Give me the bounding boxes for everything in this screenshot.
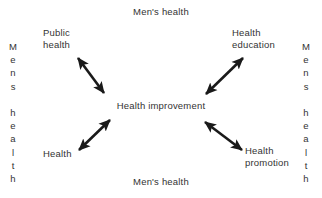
caption-right-char: n — [299, 66, 313, 79]
caption-right-char: h — [299, 172, 313, 185]
caption-left-vertical: M e n s h e a l t h — [6, 40, 20, 185]
caption-left-char: e — [6, 119, 20, 132]
node-health-improvement: Health improvement — [0, 100, 322, 112]
caption-left-char: n — [6, 66, 20, 79]
node-health-education: Health education — [232, 27, 275, 50]
node-health-promotion: Health promotion — [245, 145, 289, 168]
caption-right-char: l — [299, 146, 313, 159]
arrow-health — [79, 120, 110, 150]
caption-right-vertical: M e n s h e a l t h — [299, 40, 313, 185]
caption-left-char: h — [6, 172, 20, 185]
caption-right-char: M — [299, 40, 313, 53]
caption-top: Men's health — [0, 6, 322, 18]
mens-health-diagram: Men's health Men's health M e n s h e a … — [0, 0, 322, 198]
arrow-health-promotion — [205, 122, 242, 150]
node-health: Health — [43, 148, 72, 160]
caption-right-char: s — [299, 80, 313, 93]
caption-left-char: s — [6, 80, 20, 93]
caption-left-char: e — [6, 53, 20, 66]
caption-left-char: a — [6, 132, 20, 145]
arrow-public-health — [78, 58, 104, 93]
caption-right-char: e — [299, 53, 313, 66]
caption-left-char: l — [6, 146, 20, 159]
node-public-health: Public health — [43, 27, 70, 50]
caption-right-char: e — [299, 119, 313, 132]
caption-left-char: t — [6, 159, 20, 172]
caption-right-char: a — [299, 132, 313, 145]
caption-left-char: M — [6, 40, 20, 53]
caption-right-char: t — [299, 159, 313, 172]
arrow-health-education — [206, 58, 243, 94]
caption-bottom: Men's health — [0, 176, 322, 188]
